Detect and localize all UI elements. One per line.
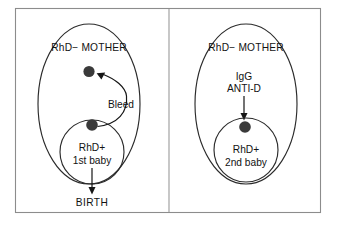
mother-label-left: RhD− MOTHER bbox=[51, 42, 127, 53]
rhd-alloimmunisation-diagram: RhD− MOTHER RhD+ 1st baby Bleed BIRTH bbox=[0, 0, 337, 227]
maternal-rhd-positive-cell-dot bbox=[83, 66, 94, 77]
first-baby-label-line1: RhD+ bbox=[79, 142, 105, 153]
igg-label: IgG bbox=[236, 71, 252, 82]
first-baby-label-line2: 1st baby bbox=[73, 155, 112, 166]
figure-frame bbox=[16, 9, 321, 213]
second-baby-label-line2: 2nd baby bbox=[225, 157, 268, 168]
anti-d-label: ANTI-D bbox=[227, 83, 261, 94]
bleed-label: Bleed bbox=[108, 99, 134, 110]
fetal-rhd-positive-cell-dot-left bbox=[86, 119, 98, 131]
second-baby-label-line1: RhD+ bbox=[233, 144, 259, 155]
birth-label: BIRTH bbox=[76, 197, 108, 208]
mother-label-right: RhD− MOTHER bbox=[208, 42, 284, 53]
fetal-rhd-positive-cell-dot-right bbox=[239, 121, 251, 133]
diagram-canvas: RhD− MOTHER RhD+ 1st baby Bleed BIRTH bbox=[0, 0, 337, 227]
